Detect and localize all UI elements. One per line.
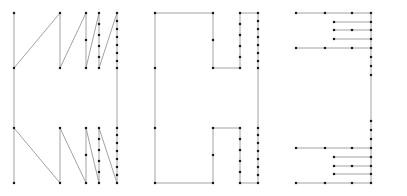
graph-node xyxy=(98,23,100,25)
graph-node xyxy=(116,60,118,62)
graph-node xyxy=(212,67,214,69)
graph-node xyxy=(324,182,326,184)
graph-node xyxy=(98,182,100,184)
graph-node xyxy=(13,12,15,14)
graph-edge xyxy=(99,13,117,68)
graph-node xyxy=(85,127,87,129)
graph-node xyxy=(239,56,241,58)
graph-node xyxy=(333,165,335,167)
graph-node xyxy=(116,142,118,144)
panel-right-nodes xyxy=(295,12,372,184)
graph-node xyxy=(295,12,297,14)
graph-node xyxy=(351,182,353,184)
graph-node xyxy=(333,21,335,23)
graph-node xyxy=(257,67,259,69)
graph-node xyxy=(239,182,241,184)
graph-node xyxy=(370,12,372,14)
graph-node xyxy=(257,44,259,46)
graph-node xyxy=(257,182,259,184)
graph-node xyxy=(116,134,118,136)
graph-node xyxy=(116,127,118,129)
graph-node xyxy=(257,52,259,54)
graph-node xyxy=(370,147,372,149)
graph-node xyxy=(257,28,259,30)
graph-node xyxy=(370,182,372,184)
graph-node xyxy=(351,147,353,149)
graph-node xyxy=(116,52,118,54)
graph-node xyxy=(257,158,259,160)
graph-node xyxy=(116,182,118,184)
graph-node xyxy=(257,36,259,38)
graph-node xyxy=(85,39,87,41)
graph-node xyxy=(370,56,372,58)
graph-node xyxy=(295,147,297,149)
graph-node xyxy=(257,174,259,176)
graph-node xyxy=(59,127,61,129)
graph-node xyxy=(212,12,214,14)
graph-node xyxy=(98,127,100,129)
graph-node xyxy=(257,20,259,22)
graph-node xyxy=(85,182,87,184)
graph-node xyxy=(257,142,259,144)
graph-node xyxy=(370,65,372,67)
graph-node xyxy=(257,60,259,62)
graph-node xyxy=(212,154,214,156)
graph-node xyxy=(59,67,61,69)
graph-node xyxy=(98,56,100,58)
graph-node xyxy=(98,171,100,173)
graph-node xyxy=(351,47,353,49)
graph-node xyxy=(351,165,353,167)
graph-node xyxy=(370,38,372,40)
graph-edge xyxy=(99,128,117,183)
graph-node xyxy=(13,67,15,69)
graph-node xyxy=(333,156,335,158)
graph-node xyxy=(257,127,259,129)
graph-node xyxy=(98,67,100,69)
graph-node xyxy=(239,160,241,162)
graph-node xyxy=(98,160,100,162)
graph-node xyxy=(98,34,100,36)
graph-node xyxy=(370,74,372,76)
graph-node xyxy=(257,166,259,168)
graph-node xyxy=(85,12,87,14)
graph-node xyxy=(98,149,100,151)
panel-middle-edges xyxy=(155,13,258,183)
graph-node xyxy=(333,173,335,175)
figure-container xyxy=(0,0,407,196)
graph-node xyxy=(116,12,118,14)
graph-node xyxy=(154,12,156,14)
graph-edge xyxy=(60,13,86,68)
graph-node xyxy=(116,44,118,46)
graph-edge xyxy=(60,128,86,183)
graph-node xyxy=(154,67,156,69)
graph-node xyxy=(370,120,372,122)
graph-node xyxy=(295,47,297,49)
graph-node xyxy=(239,23,241,25)
graph-node xyxy=(13,182,15,184)
graph-node xyxy=(370,29,372,31)
graph-node xyxy=(239,149,241,151)
graph-edge xyxy=(86,13,99,68)
graph-node xyxy=(370,173,372,175)
graph-node xyxy=(351,12,353,14)
graph-node xyxy=(239,34,241,36)
graph-node xyxy=(13,127,15,129)
panel-left-group xyxy=(13,12,118,184)
graph-node xyxy=(59,12,61,14)
graph-node xyxy=(98,138,100,140)
panel-middle-nodes xyxy=(154,12,259,184)
graph-node xyxy=(239,171,241,173)
graph-node xyxy=(154,127,156,129)
graph-node xyxy=(59,182,61,184)
graph-node xyxy=(239,12,241,14)
graph-node xyxy=(116,150,118,152)
graph-node xyxy=(116,158,118,160)
graph-node xyxy=(239,127,241,129)
graph-node xyxy=(116,36,118,38)
graph-node xyxy=(324,12,326,14)
graph-drawing-canvas xyxy=(0,0,407,196)
graph-edge xyxy=(14,13,60,68)
graph-node xyxy=(351,29,353,31)
graph-node xyxy=(85,67,87,69)
graph-node xyxy=(239,45,241,47)
